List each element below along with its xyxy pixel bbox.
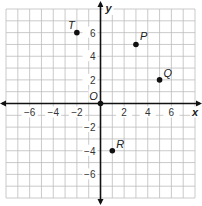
- y-tick-label: 2: [90, 75, 96, 86]
- y-axis-down-arrow-icon: [98, 199, 104, 205]
- y-tick-label: 6: [90, 28, 96, 39]
- y-tick-label: −2: [84, 122, 96, 133]
- coordinate-plane: −6−4−2246642−2−4−6xyO TPQR: [0, 0, 202, 206]
- point-label-p: P: [140, 30, 148, 42]
- x-tick-label: −4: [48, 107, 60, 118]
- y-tick-label: 4: [90, 51, 96, 62]
- origin-label: O: [89, 90, 98, 102]
- data-points: TPQR: [68, 19, 173, 154]
- point-t: [74, 30, 80, 36]
- point-label-q: Q: [164, 67, 173, 79]
- point-o: [98, 101, 104, 107]
- x-tick-label: −6: [24, 107, 36, 118]
- point-q: [157, 77, 163, 83]
- point-r: [110, 148, 116, 154]
- x-tick-label: −2: [71, 107, 83, 118]
- x-axis-label: x: [191, 106, 199, 118]
- y-axis-label: y: [104, 2, 112, 14]
- tick-labels: −6−4−2246642−2−4−6xyO: [22, 2, 200, 180]
- y-tick-label: −4: [84, 146, 96, 157]
- x-axis-left-arrow-icon: [0, 101, 6, 107]
- point-label-r: R: [116, 138, 124, 150]
- point-p: [133, 42, 139, 48]
- x-tick-label: 2: [121, 107, 127, 118]
- x-tick-label: 4: [145, 107, 151, 118]
- y-axis-up-arrow-icon: [98, 1, 104, 7]
- x-tick-label: 6: [169, 107, 175, 118]
- y-tick-label: −6: [84, 169, 96, 180]
